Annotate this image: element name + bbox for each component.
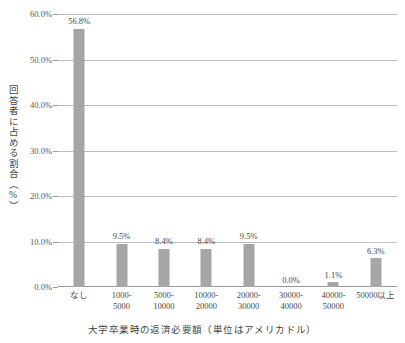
category-label-line-1: 50000以上 bbox=[356, 290, 395, 300]
bar[interactable] bbox=[201, 249, 212, 287]
bars-layer: 56.8%9.5%8.4%8.4%9.5%0.0%1.1%6.3% bbox=[58, 14, 397, 287]
x-axis-category-label: なし bbox=[58, 290, 100, 301]
category-label-line-1: 30000- bbox=[279, 290, 303, 300]
bar[interactable] bbox=[158, 249, 169, 287]
bar-value-label: 0.0% bbox=[282, 276, 300, 285]
y-axis-tick-label: 60.0% bbox=[14, 10, 52, 19]
category-label-line-1: 5000- bbox=[154, 290, 174, 300]
bar-value-label: 8.4% bbox=[197, 237, 215, 246]
bar-slot: 1.1% bbox=[312, 14, 354, 287]
x-axis-category-label: 50000以上 bbox=[355, 290, 397, 301]
bar-value-label: 9.5% bbox=[240, 232, 258, 241]
bar-value-label: 56.8% bbox=[68, 17, 90, 26]
category-label-line-2: 20000 bbox=[185, 301, 227, 312]
category-label-line-2: 30000 bbox=[228, 301, 270, 312]
bar[interactable] bbox=[74, 29, 85, 287]
category-label-line-1: 20000- bbox=[237, 290, 261, 300]
y-axis-tick-label: 50.0% bbox=[14, 56, 52, 65]
x-axis-category-label: 1000-5000 bbox=[100, 290, 142, 311]
bar-slot: 0.0% bbox=[270, 14, 312, 287]
bar-value-label: 9.5% bbox=[113, 232, 131, 241]
bar-slot: 56.8% bbox=[58, 14, 100, 287]
category-label-line-1: なし bbox=[70, 290, 88, 300]
bar[interactable] bbox=[243, 244, 254, 287]
category-label-line-2: 5000 bbox=[100, 301, 142, 312]
x-axis-category-label: 30000-40000 bbox=[270, 290, 312, 311]
category-label-line-1: 40000- bbox=[321, 290, 345, 300]
bar-value-label: 1.1% bbox=[325, 271, 343, 280]
y-axis-tick-label: 40.0% bbox=[14, 101, 52, 110]
bar-slot: 9.5% bbox=[100, 14, 142, 287]
category-label-line-1: 1000- bbox=[112, 290, 132, 300]
category-label-line-2: 40000 bbox=[270, 301, 312, 312]
y-axis-tick-label: 0.0% bbox=[14, 283, 52, 292]
x-axis-category-label: 5000-10000 bbox=[143, 290, 185, 311]
y-axis-tick-label: 10.0% bbox=[14, 238, 52, 247]
plot-area: 56.8%9.5%8.4%8.4%9.5%0.0%1.1%6.3% bbox=[58, 14, 397, 287]
bar[interactable] bbox=[370, 258, 381, 287]
bar-chart: 回答者に占める割合（%） 0.0%10.0%20.0%30.0%40.0%50.… bbox=[0, 0, 405, 343]
y-axis-tick-label: 30.0% bbox=[14, 147, 52, 156]
bar-slot: 8.4% bbox=[143, 14, 185, 287]
bar-value-label: 6.3% bbox=[367, 247, 385, 256]
bar-slot: 9.5% bbox=[228, 14, 270, 287]
bar-slot: 8.4% bbox=[185, 14, 227, 287]
category-label-line-2: 50000 bbox=[312, 301, 354, 312]
x-axis-category-label: 20000-30000 bbox=[228, 290, 270, 311]
y-axis-tick-mark bbox=[53, 287, 58, 288]
x-axis-category-labels: なし1000-50005000-1000010000-2000020000-30… bbox=[58, 290, 397, 316]
bar-value-label: 8.4% bbox=[155, 237, 173, 246]
category-label-line-1: 10000- bbox=[194, 290, 218, 300]
bar-slot: 6.3% bbox=[355, 14, 397, 287]
y-axis-tick-label: 20.0% bbox=[14, 192, 52, 201]
x-axis-category-label: 40000-50000 bbox=[312, 290, 354, 311]
x-axis-category-label: 10000-20000 bbox=[185, 290, 227, 311]
x-axis-title: 大学卒業時の返済必要額（単位はアメリカドル） bbox=[0, 322, 405, 336]
bar[interactable] bbox=[328, 282, 339, 287]
category-label-line-2: 10000 bbox=[143, 301, 185, 312]
bar[interactable] bbox=[116, 244, 127, 287]
